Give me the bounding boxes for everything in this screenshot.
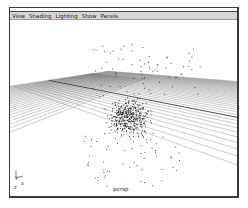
scene-canvas[interactable]	[10, 21, 238, 197]
menu-view[interactable]: View	[12, 12, 25, 20]
menu-panels[interactable]: Panels	[100, 12, 118, 20]
panel-menubar: View Shading Lighting Show Panels	[10, 11, 237, 20]
axis-z-label: z	[14, 184, 17, 190]
axis-x-label: x	[21, 180, 24, 186]
axis-y-label: y	[15, 174, 18, 180]
menu-show[interactable]: Show	[82, 12, 97, 20]
menu-lighting[interactable]: Lighting	[55, 12, 77, 20]
menu-shading[interactable]: Shading	[29, 12, 51, 20]
viewport-panel: View Shading Lighting Show Panels y x z …	[9, 7, 239, 198]
camera-label: persp	[113, 186, 129, 192]
3d-viewport[interactable]	[10, 21, 237, 196]
